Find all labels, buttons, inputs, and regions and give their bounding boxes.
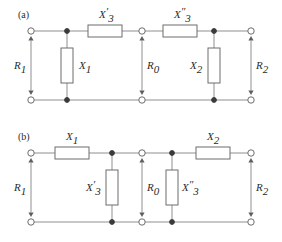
X2-series-label-text: X2 (206, 130, 220, 146)
R1-port-arrow-label: R1 (13, 59, 26, 75)
X3-double-prime-series-label: X″3 (173, 5, 191, 24)
R1-port-arrow-label-text: R1 (13, 181, 26, 197)
terminal-bottom-2 (248, 219, 254, 225)
circuit-figure: (a)X′3X″3X1X2R1R0R2(b)X1X2X′3X″3R1R0R2 (0, 0, 282, 242)
terminal-top-1 (139, 150, 145, 156)
R2-port-arrow-label: R2 (255, 59, 269, 75)
node-dot-bottom-0 (110, 220, 115, 225)
X3-double-prime-shunt-box (166, 170, 178, 205)
R2-port-arrow-label: R2 (255, 181, 269, 197)
node-dot-top-0 (65, 29, 70, 34)
R2-port-arrow-label-text: R2 (255, 59, 269, 75)
R1-port-arrow (28, 36, 33, 95)
terminal-top-1 (139, 28, 145, 34)
R1-port-arrow-label: R1 (13, 181, 26, 197)
R1-port-arrow (28, 158, 33, 217)
terminal-bottom-2 (248, 97, 254, 103)
R2-port-arrow-head-down (248, 213, 253, 218)
R1-port-arrow-head-down (28, 213, 33, 218)
circuit-svg-canvas: (a)X′3X″3X1X2R1R0R2(b)X1X2X′3X″3R1R0R2 (0, 0, 282, 242)
node-dot-bottom-0 (65, 98, 70, 103)
terminal-bottom-1 (139, 219, 145, 225)
R0-port-arrow-label-text: R0 (146, 59, 160, 75)
node-dot-top-1 (170, 151, 175, 156)
X3-double-prime-shunt-label-text: X″3 (181, 178, 199, 197)
X2-shunt-label: X2 (189, 59, 203, 75)
terminal-top-2 (248, 150, 254, 156)
circuit-panel-a: (a)X′3X″3X1X2R1R0R2 (13, 5, 269, 104)
terminal-top-0 (28, 28, 34, 34)
X1-shunt-label-text: X1 (78, 59, 91, 75)
R1-port-arrow-label-text: R1 (13, 59, 26, 75)
X3-prime-series-box (88, 25, 122, 37)
R2-port-arrow-head-up (248, 36, 253, 41)
X2-series-label: X2 (206, 130, 220, 146)
R2-port-arrow-head-up (248, 158, 253, 163)
R0-port-arrow-head-down (139, 213, 144, 218)
R0-port-arrow-head-down (139, 91, 144, 96)
node-dot-bottom-1 (170, 220, 175, 225)
X3-double-prime-series-box (163, 25, 197, 37)
X1-series-label: X1 (65, 130, 78, 146)
R1-port-arrow-head-up (28, 36, 33, 41)
X3-prime-shunt-label-text: X′3 (85, 178, 101, 197)
X1-series-box (55, 147, 89, 159)
terminal-bottom-1 (139, 97, 145, 103)
R0-port-arrow-label: R0 (146, 181, 160, 197)
R2-port-arrow-head-down (248, 91, 253, 96)
X2-shunt-box (208, 48, 220, 83)
R0-port-arrow (139, 158, 144, 217)
R0-port-arrow-label-text: R0 (146, 181, 160, 197)
node-dot-top-1 (212, 29, 217, 34)
R0-port-arrow-label: R0 (146, 59, 160, 75)
R1-port-arrow-head-up (28, 158, 33, 163)
X3-prime-series-label: X′3 (98, 5, 114, 24)
R1-port-arrow-head-down (28, 91, 33, 96)
terminal-bottom-0 (28, 97, 34, 103)
panel-label-a: (a) (18, 9, 29, 21)
X2-shunt-label-text: X2 (189, 59, 203, 75)
panel-label-b: (b) (18, 131, 30, 143)
R2-port-arrow (248, 158, 253, 217)
R2-port-arrow (248, 36, 253, 95)
R0-port-arrow-head-up (139, 36, 144, 41)
terminal-top-0 (28, 150, 34, 156)
node-dot-top-0 (110, 151, 115, 156)
X3-double-prime-series-label-text: X″3 (173, 5, 191, 24)
X1-shunt-box (61, 48, 73, 83)
X3-prime-shunt-box (106, 170, 118, 205)
X3-double-prime-shunt-label: X″3 (181, 178, 199, 197)
R2-port-arrow-label-text: R2 (255, 181, 269, 197)
circuit-panel-b: (b)X1X2X′3X″3R1R0R2 (13, 130, 269, 225)
node-dot-bottom-1 (212, 98, 217, 103)
R0-port-arrow-head-up (139, 158, 144, 163)
X2-series-box (196, 147, 230, 159)
R0-port-arrow (139, 36, 144, 95)
X3-prime-shunt-label: X′3 (85, 178, 101, 197)
X1-shunt-label: X1 (78, 59, 91, 75)
terminal-top-2 (248, 28, 254, 34)
X1-series-label-text: X1 (65, 130, 78, 146)
X3-prime-series-label-text: X′3 (98, 5, 114, 24)
terminal-bottom-0 (28, 219, 34, 225)
